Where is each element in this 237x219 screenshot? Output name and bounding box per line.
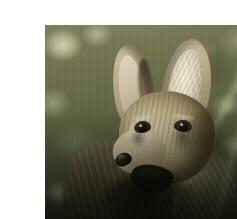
fox-tear-streak-right: [171, 129, 193, 151]
fox-subject: [45, 25, 237, 219]
fox-chest-shadow: [105, 175, 195, 219]
fox-eye-glint-right: [180, 123, 183, 126]
fox-nose-highlight: [118, 154, 124, 158]
page-canvas: Close-up photograph of a fox with large …: [0, 0, 237, 219]
fox-photograph: Close-up photograph of a fox with large …: [45, 25, 237, 219]
fox-tear-streak-left: [129, 131, 147, 149]
fox-eye-glint-left: [139, 124, 142, 127]
